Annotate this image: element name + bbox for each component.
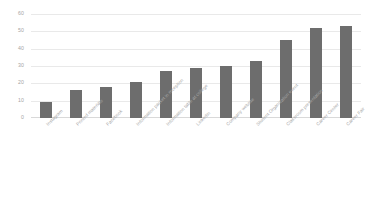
y-axis-tick-label: 50: [18, 29, 24, 34]
x-axis-slot: Company website: [211, 119, 241, 199]
bar[interactable]: [340, 26, 352, 118]
y-axis-tick-label: 30: [18, 63, 24, 68]
y-axis-tick-label: 40: [18, 46, 24, 51]
y-axis-tick-label: 60: [18, 11, 24, 16]
x-axis-slot: Student Organization event: [241, 119, 271, 199]
x-axis-slot: Career Center: [301, 119, 331, 199]
bar[interactable]: [250, 61, 262, 118]
x-axis-slot: Information packet in reception: [121, 119, 151, 199]
x-axis-slot: Career Fair: [331, 119, 361, 199]
bar[interactable]: [130, 82, 142, 118]
x-axis: InstagramPrinted materialsFacebookInform…: [31, 119, 361, 199]
bar[interactable]: [310, 28, 322, 118]
x-axis-slot: Classroom presentation: [271, 119, 301, 199]
bar-slot: [61, 14, 91, 118]
bar[interactable]: [220, 66, 232, 118]
bar[interactable]: [280, 40, 292, 118]
bar-slot: [121, 14, 151, 118]
bar-chart: 0102030405060 InstagramPrinted materials…: [0, 0, 371, 204]
x-axis-slot: Information table at college: [151, 119, 181, 199]
x-axis-slot: Facebook: [91, 119, 121, 199]
y-axis: 0102030405060: [0, 14, 29, 118]
y-axis-tick-label: 20: [18, 81, 24, 86]
bar-slot: [31, 14, 61, 118]
y-axis-tick-label: 0: [21, 115, 24, 120]
bar[interactable]: [40, 102, 52, 118]
bar[interactable]: [70, 90, 82, 118]
y-axis-tick-label: 10: [18, 98, 24, 103]
x-axis-slot: LinkedIn: [181, 119, 211, 199]
x-axis-slot: Printed materials: [61, 119, 91, 199]
x-axis-slot: Instagram: [31, 119, 61, 199]
bar-slot: [211, 14, 241, 118]
